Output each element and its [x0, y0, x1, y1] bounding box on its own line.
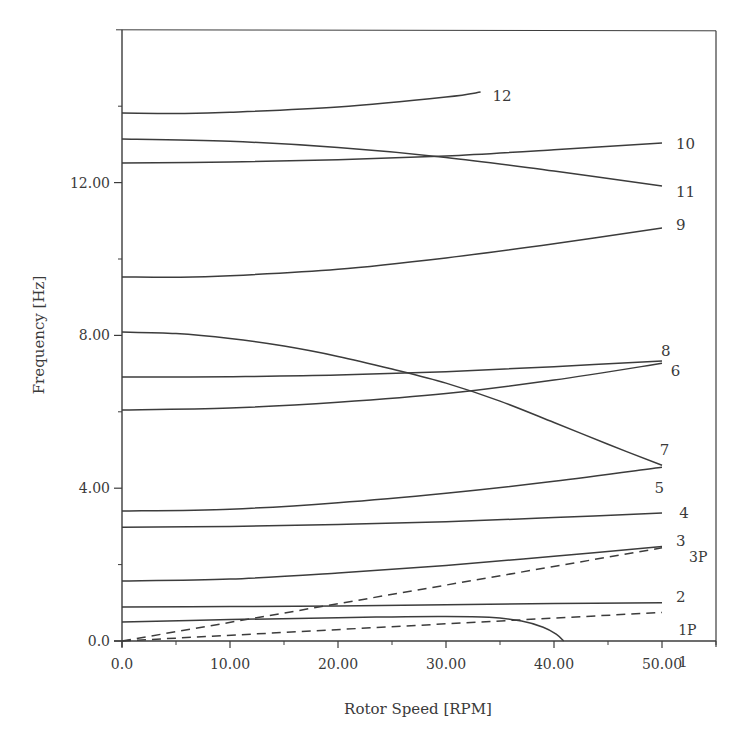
series-label-mode-10: 10: [676, 135, 695, 153]
series-line-mode-12: [122, 92, 481, 113]
chart-canvas: 0.010.0020.0030.0040.0050.000.04.008.001…: [0, 0, 750, 733]
y-tick-label: 4.00: [79, 480, 110, 496]
modal-frequency-chart: 0.010.0020.0030.0040.0050.000.04.008.001…: [0, 0, 750, 733]
series-label-mode-3: 3: [676, 532, 686, 550]
x-tick-label: 0.0: [111, 656, 133, 672]
x-tick-label: 10.00: [210, 656, 250, 672]
series-line-mode-3: [122, 547, 662, 581]
series-label-mode-1: 1: [678, 653, 688, 671]
series-label-mode-12: 12: [492, 87, 511, 105]
series-line-mode-10: [122, 143, 662, 163]
series-label-mode-11: 11: [676, 183, 695, 201]
y-tick-label: 8.00: [79, 327, 110, 343]
axes: 0.010.0020.0030.0040.0050.000.04.008.001…: [70, 30, 716, 672]
x-axis-title: Rotor Speed [RPM]: [344, 700, 492, 718]
y-axis-title: Frequency [Hz]: [30, 276, 48, 395]
series-line-mode-9: [122, 228, 662, 277]
x-tick-label: 40.00: [534, 656, 574, 672]
y-tick-label: 0.0: [88, 633, 110, 649]
series-line-mode-2: [122, 603, 662, 607]
series-label-mode-7: 7: [660, 441, 670, 459]
y-tick-label: 12.00: [70, 175, 110, 191]
series-label-mode-8: 8: [661, 342, 671, 360]
series-label-mode-1P: 1P: [678, 622, 696, 638]
series-label-mode-2: 2: [676, 588, 686, 606]
top-frame-line: [116, 30, 716, 31]
series-label-mode-9: 9: [676, 216, 686, 234]
series-line-mode-5: [122, 467, 662, 511]
series-label-mode-4: 4: [679, 504, 689, 522]
series-lines: [122, 92, 662, 641]
series-line-mode-4: [122, 513, 662, 527]
series-line-mode-6: [122, 363, 662, 410]
series-label-mode-6: 6: [671, 362, 681, 380]
series-labels: 1234567891011121P3P: [492, 87, 707, 672]
series-label-mode-5: 5: [654, 479, 664, 497]
series-label-mode-3P: 3P: [689, 549, 707, 565]
x-tick-label: 50.00: [642, 656, 682, 672]
x-tick-label: 30.00: [426, 656, 466, 672]
x-tick-label: 20.00: [318, 656, 358, 672]
